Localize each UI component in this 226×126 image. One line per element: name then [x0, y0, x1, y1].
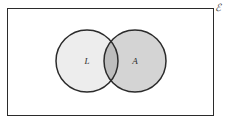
set-label-left: L — [78, 57, 96, 66]
venn-circles-svg — [0, 0, 226, 126]
set-label-right: A — [126, 57, 144, 66]
venn-diagram-figure: L A ℰ — [0, 0, 226, 126]
universal-set-label: ℰ — [215, 1, 226, 15]
